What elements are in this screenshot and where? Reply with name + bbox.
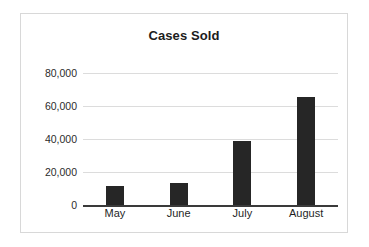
x-axis-tick-label: June <box>167 207 191 219</box>
y-axis: 020,00040,00060,00080,000 <box>21 73 77 205</box>
x-axis: MayJuneJulyAugust <box>83 207 338 227</box>
bar[interactable] <box>170 183 188 205</box>
y-axis-tick-label: 0 <box>21 199 77 211</box>
bar[interactable] <box>106 186 124 205</box>
x-axis-tick-label: May <box>104 207 125 219</box>
y-axis-tick-label: 80,000 <box>21 67 77 79</box>
y-axis-tick-label: 20,000 <box>21 166 77 178</box>
x-axis-tick-label: July <box>233 207 253 219</box>
y-axis-tick-label: 60,000 <box>21 100 77 112</box>
gridline <box>83 73 338 74</box>
chart-title: Cases Sold <box>21 28 347 43</box>
bar[interactable] <box>233 141 251 205</box>
plot-area <box>83 73 338 205</box>
bar[interactable] <box>297 97 315 205</box>
chart-container: Cases Sold 020,00040,00060,00080,000 May… <box>20 13 348 233</box>
x-axis-tick-label: August <box>289 207 323 219</box>
y-axis-tick-label: 40,000 <box>21 133 77 145</box>
